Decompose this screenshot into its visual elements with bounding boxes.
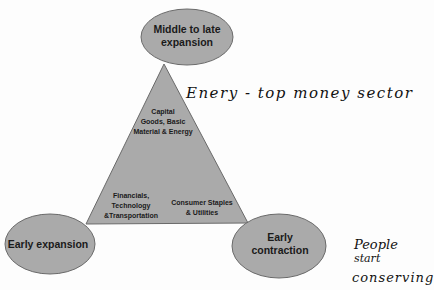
handwritten-conserving-line1: People — [353, 237, 398, 252]
sector-rotation-diagram: Middle to late expansion Early expansion… — [0, 0, 434, 290]
sector-bottom-right-line2: & Utilities — [186, 209, 218, 216]
phase-early-contraction: Early contraction — [232, 214, 326, 278]
sector-bottom-left-line3: &Transportation — [104, 212, 158, 220]
phase-label-bottom-left: Early expansion — [8, 238, 89, 250]
sector-top-line2: Goods, Basic — [141, 118, 186, 126]
sector-top-line1: Capital — [151, 108, 174, 116]
phase-label-top-line2: expansion — [161, 36, 213, 48]
phase-label-top-line1: Middle to late — [153, 23, 220, 35]
sector-bottom-right-line1: Consumer Staples — [171, 199, 233, 207]
sector-bottom-left-line2: Technology — [112, 202, 151, 210]
handwritten-conserving-line3: conserving — [352, 270, 434, 285]
handwritten-energy-note: Enery - top money sector — [185, 84, 413, 102]
phase-label-bottom-right-line2: contraction — [251, 244, 308, 256]
phase-early-expansion: Early expansion — [5, 214, 95, 274]
handwritten-conserving-line2: start — [354, 252, 381, 265]
phase-label-bottom-right-line1: Early — [267, 231, 293, 243]
sector-bottom-left-line1: Financials, — [113, 192, 149, 200]
handwritten-conserving-note: People start conserving — [352, 237, 434, 285]
phase-middle-late-expansion: Middle to late expansion — [141, 9, 233, 65]
sector-top-line3: Material & Energy — [133, 128, 192, 136]
